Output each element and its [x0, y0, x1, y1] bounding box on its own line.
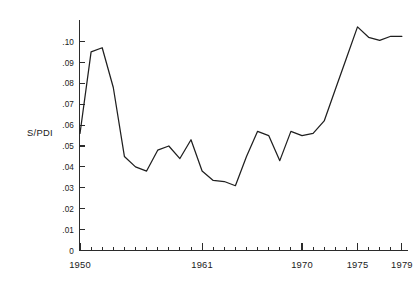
y-axis-tick-label: .02 — [62, 205, 74, 214]
y-axis-tick-label: 0 — [69, 247, 74, 256]
chart-figure: 0.01.02.03.04.05.06.07.08.09.10 19501961… — [0, 0, 413, 282]
y-axis-tick-label: .03 — [62, 184, 74, 193]
y-axis-tick-label: .05 — [62, 142, 74, 151]
y-axis-tick-label: .09 — [62, 59, 74, 68]
y-axis-tick-label: .08 — [62, 79, 74, 88]
line-chart-canvas: 0.01.02.03.04.05.06.07.08.09.10 19501961… — [0, 0, 413, 282]
x-axis-tick-label: 1961 — [191, 259, 213, 270]
y-axis-tick-label: .04 — [62, 163, 74, 172]
y-axis-tick-label: .06 — [62, 121, 74, 130]
y-axis-tick-label: .07 — [62, 100, 74, 109]
y-axis-tick-label: .01 — [62, 226, 74, 235]
y-axis-tick-label: .10 — [62, 38, 74, 47]
x-axis-tick-label: 1975 — [347, 259, 369, 270]
x-axis-tick-label: 1979 — [391, 259, 413, 270]
x-axis-tick-label: 1970 — [291, 259, 313, 270]
x-axis-tick-label: 1950 — [69, 259, 91, 270]
y-axis-title: S/PDI — [27, 127, 53, 138]
